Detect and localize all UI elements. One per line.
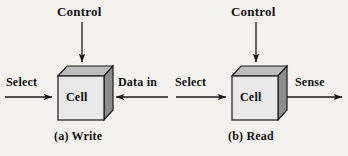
cube-side-face-read	[278, 66, 287, 120]
cell-label-write: Cell	[66, 91, 87, 103]
memory-cell-figure: Control Select Data in Cell (a) Write	[0, 0, 348, 156]
select-label-write: Select	[6, 76, 37, 88]
control-label-write: Control	[57, 5, 102, 18]
data-in-label-write: Data in	[118, 76, 157, 88]
caption-read: (b) Read	[228, 130, 274, 142]
control-label-read: Control	[231, 5, 276, 18]
cell-label-read: Cell	[240, 91, 261, 103]
cube-side-face-write	[104, 66, 113, 120]
select-label-read: Select	[175, 76, 206, 88]
sense-label-read: Sense	[295, 76, 325, 88]
caption-write: (a) Write	[54, 130, 102, 142]
diagram-panel-write: Control Select Data in Cell (a) Write	[0, 0, 174, 156]
diagram-panel-read: Control Select Sense Cell (b) Read	[174, 0, 348, 156]
